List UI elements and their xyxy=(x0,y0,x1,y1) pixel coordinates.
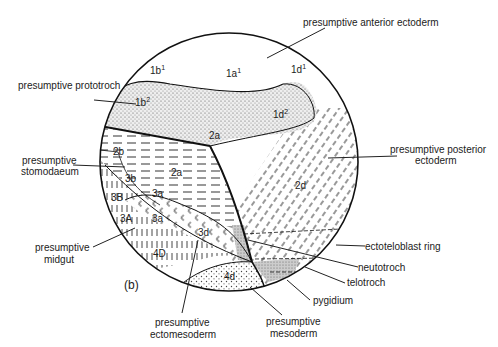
region-4D: 4D xyxy=(153,248,166,259)
label-mesoderm-2: mesoderm xyxy=(270,328,317,339)
label-posterior-ectoderm-1: presumptive posterior xyxy=(390,144,487,155)
label-posterior-ectoderm-2: ectoderm xyxy=(415,155,457,166)
label-anterior-ectoderm: presumptive anterior ectoderm xyxy=(303,17,439,28)
region-2a-top: 2a xyxy=(209,130,221,141)
region-3b: 3b xyxy=(125,173,137,184)
region-3d: 3d xyxy=(198,227,209,238)
region-3a-low: 3a xyxy=(152,213,164,224)
label-neutotroch: neutotroch xyxy=(358,262,405,273)
region-2a-mid: 2a xyxy=(171,167,183,178)
region-3a-mid: 3a xyxy=(152,188,164,199)
region-2d: 2d xyxy=(295,180,306,191)
region-3A: 3A xyxy=(120,213,133,224)
label-telotroch: telotroch xyxy=(347,277,385,288)
label-prototroch: presumptive prototroch xyxy=(18,80,120,91)
label-midgut-2: midgut xyxy=(44,254,74,265)
embryo-fate-map: 1b1 1a1 1d1 1b2 1d2 2a 2b 2a 3b 3a 3B 3a… xyxy=(0,0,498,347)
region-4d: 4d xyxy=(224,271,235,282)
label-stomodaeum-1: presumptive xyxy=(22,155,77,166)
label-midgut-1: presumptive xyxy=(35,242,90,253)
label-stomodaeum-2: stomodaeum xyxy=(21,166,79,177)
label-ectomesoderm-1: presumptive xyxy=(155,317,210,328)
label-pygidium: pygidium xyxy=(313,295,353,306)
label-ectomesoderm-2: ectomesoderm xyxy=(150,329,216,340)
figure-label: (b) xyxy=(124,278,139,292)
label-ectoteloblast-ring: ectoteloblast ring xyxy=(365,241,441,252)
label-mesoderm-1: presumptive xyxy=(266,316,321,327)
region-2b: 2b xyxy=(113,146,125,157)
region-3B: 3B xyxy=(111,192,124,203)
